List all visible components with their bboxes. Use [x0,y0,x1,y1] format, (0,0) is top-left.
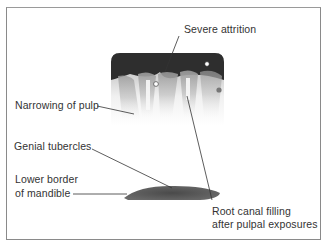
label-lower-border-line2: of mandible [15,187,70,199]
label-genial-tubercles: Genial tubercles [14,140,91,152]
label-lower-border-line1: Lower border [15,173,78,185]
label-narrowing-of-pulp: Narrowing of pulp [15,99,99,111]
label-severe-attrition: Severe attrition [184,23,256,35]
label-root-canal-line1: Root canal filling [212,205,291,217]
label-root-canal-line2: after pulpal exposures [212,218,318,230]
